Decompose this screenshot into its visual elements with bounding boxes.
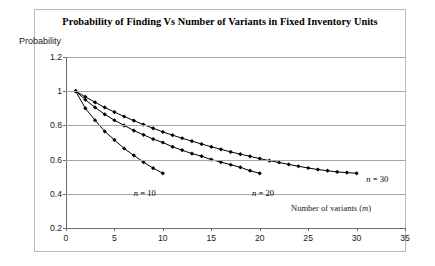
gridline (66, 160, 405, 161)
data-point-marker (200, 154, 204, 158)
y-tick-label: 0.8 (32, 120, 62, 130)
data-series (74, 89, 165, 175)
data-point-marker (122, 114, 126, 118)
plot-area: n = 10n = 20n = 30 (66, 57, 405, 228)
y-tick-label: 1.2 (32, 52, 62, 62)
series-label-value: = 30 (371, 174, 389, 184)
data-point-marker (161, 171, 165, 175)
data-point-marker (161, 140, 165, 144)
x-tick-label: 0 (49, 233, 83, 243)
data-point-marker (180, 148, 184, 152)
x-tick-label: 30 (340, 233, 374, 243)
data-point-marker (248, 154, 252, 158)
data-point-marker (219, 147, 223, 151)
x-tick-mark (405, 228, 406, 231)
data-point-marker (132, 128, 136, 132)
data-point-marker (325, 169, 329, 173)
data-point-marker (93, 100, 97, 104)
data-point-marker (296, 164, 300, 168)
series-container (66, 57, 405, 228)
data-point-marker (170, 133, 174, 137)
y-tick-label: 0.6 (32, 155, 62, 165)
y-tick-label: 1 (32, 86, 62, 96)
data-point-marker (190, 152, 194, 156)
data-point-marker (219, 160, 223, 164)
data-point-marker (306, 166, 310, 170)
series-label: n = 20 (252, 188, 274, 198)
gridline (66, 91, 405, 92)
x-tick-label: 25 (291, 233, 325, 243)
gridline (66, 57, 405, 58)
x-tick-label: 35 (388, 233, 422, 243)
data-point-marker (335, 170, 339, 174)
x-tick-label: 5 (97, 233, 131, 243)
x-axis-line (66, 228, 405, 229)
data-point-marker (161, 130, 165, 134)
data-point-marker (151, 126, 155, 130)
data-point-marker (209, 145, 213, 149)
data-series (74, 89, 262, 175)
data-point-marker (229, 150, 233, 154)
gridline (66, 125, 405, 126)
series-line (76, 91, 260, 173)
x-tick-label: 10 (146, 233, 180, 243)
y-tick-label: 0.4 (32, 189, 62, 199)
data-point-marker (248, 169, 252, 173)
y-tick-labels: 0.20.40.60.811.2 (30, 57, 62, 228)
series-label: n = 30 (366, 174, 388, 184)
data-point-marker (277, 160, 281, 164)
data-point-marker (103, 105, 107, 109)
data-point-marker (287, 162, 291, 166)
y-tick-label: 0.2 (32, 223, 62, 233)
data-point-marker (132, 119, 136, 123)
series-label-value: = 20 (256, 188, 274, 198)
x-tick-labels: 05101520253035 (66, 233, 405, 247)
data-point-marker (345, 170, 349, 174)
series-label-value: = 10 (138, 188, 156, 198)
data-point-marker (151, 137, 155, 141)
data-point-marker (170, 145, 174, 149)
data-point-marker (316, 167, 320, 171)
y-axis-label: Probability (19, 36, 61, 46)
data-series (74, 89, 359, 175)
data-point-marker (258, 171, 262, 175)
data-point-marker (238, 152, 242, 156)
data-point-marker (354, 171, 358, 175)
data-point-marker (200, 142, 204, 146)
series-label: n = 10 (134, 188, 156, 198)
chart-title: Probability of Finding Vs Number of Vari… (34, 16, 406, 27)
data-point-marker (180, 136, 184, 140)
data-point-marker (238, 165, 242, 169)
series-line (76, 91, 163, 173)
gridline (66, 194, 405, 195)
x-tick-label: 15 (194, 233, 228, 243)
data-point-marker (141, 133, 145, 137)
x-tick-label: 20 (243, 233, 277, 243)
data-point-marker (112, 110, 116, 114)
data-point-marker (229, 163, 233, 167)
data-point-marker (190, 139, 194, 143)
